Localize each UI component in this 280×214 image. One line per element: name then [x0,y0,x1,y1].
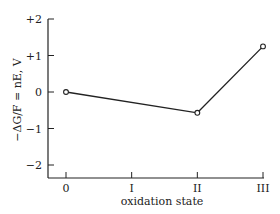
y-tick-label: +1 [26,50,42,63]
x-ticks: 0IIIIII [63,172,270,195]
y-tick-label: +2 [26,13,42,26]
x-tick-label: III [256,182,269,195]
x-axis-label: oxidation state [121,195,204,208]
series-line [66,46,263,112]
y-axis-label: −ΔG/F = nE, V [11,57,24,142]
y-ticks: +2+10−1−2 [26,13,54,172]
y-tick-label: 0 [35,86,42,99]
axes [48,19,264,178]
y-tick-label: −1 [26,123,42,136]
x-tick-label: 0 [63,182,70,195]
x-tick-label: I [129,182,133,195]
data-point-marker [261,44,266,49]
data-point-marker [64,90,69,95]
data-series [64,44,266,115]
frost-diagram-chart: +2+10−1−2 0IIIIII oxidation state −ΔG/F … [0,0,280,214]
data-point-marker [195,110,200,115]
x-tick-label: II [193,182,202,195]
y-tick-label: −2 [26,159,42,172]
